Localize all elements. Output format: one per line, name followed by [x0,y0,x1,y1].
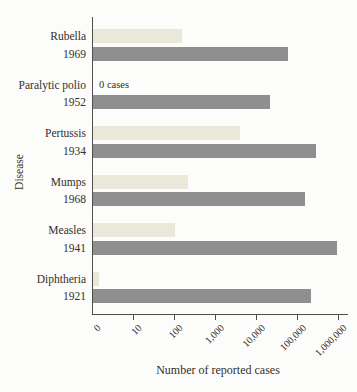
label-disease-measles: Measles [48,223,86,237]
x-tick-label-100000: 100,000 [277,322,308,353]
x-tick-label-1000: 1,000 [202,322,226,346]
reported-cases-bar-chart: Disease 0101001,00010,000100,0001,000,00… [0,0,357,392]
y-axis-line [92,17,93,314]
annotation-paralytic-polio: 0 cases [99,78,129,92]
x-tick-label-0: 0 [91,322,102,333]
x-tick-label-100: 100 [166,322,184,340]
label-disease-paralytic-polio: Paralytic polio [19,78,86,92]
bar-dark-pertussis [93,144,316,158]
bar-light-rubella [93,29,182,43]
label-year-measles: 1941 [63,241,86,255]
label-year-rubella: 1969 [63,47,86,61]
label-disease-pertussis: Pertussis [45,126,86,140]
bar-dark-rubella [93,47,288,61]
bar-dark-measles [93,241,337,255]
bar-dark-paralytic-polio [93,95,270,109]
bar-light-pertussis [93,126,240,140]
bar-light-diphtheria [93,272,99,286]
label-year-paralytic-polio: 1952 [63,95,86,109]
x-tick-label-10000: 10,000 [240,322,267,349]
bar-dark-diphtheria [93,289,311,303]
label-disease-diphtheria: Diphtheria [37,272,86,286]
x-axis-tick [338,315,339,320]
x-tick-label-10: 10 [129,322,144,337]
bar-light-measles [93,223,175,237]
label-disease-rubella: Rubella [50,29,86,43]
x-tick-label-1000000: 1,000,000 [313,322,349,358]
x-axis-tick [256,315,257,320]
x-axis-line [92,314,348,315]
y-axis-title: Disease [13,154,25,190]
label-year-mumps: 1968 [63,192,86,206]
label-year-pertussis: 1934 [63,144,86,158]
label-year-diphtheria: 1921 [63,289,86,303]
label-disease-mumps: Mumps [51,175,86,189]
x-axis-tick [297,315,298,320]
x-axis-tick [133,315,134,320]
x-axis-tick [215,315,216,320]
x-axis-title: Number of reported cases [92,363,344,378]
x-axis-tick [174,315,175,320]
bar-dark-mumps [93,192,305,206]
bar-light-mumps [93,175,188,189]
